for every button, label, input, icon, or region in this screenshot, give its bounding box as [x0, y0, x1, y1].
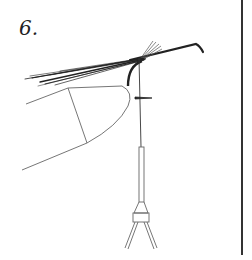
- bobbin-holder: [125, 147, 157, 249]
- vise-jaws: [22, 86, 130, 170]
- page-divider: [241, 0, 243, 255]
- tying-thread: [139, 58, 141, 147]
- thread-wrap: [135, 97, 152, 99]
- fly-tying-illustration: [0, 0, 252, 260]
